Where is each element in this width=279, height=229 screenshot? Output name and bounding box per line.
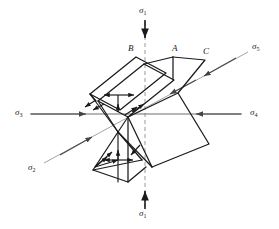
label-point-a: A [172,44,178,53]
sheet-b-face [90,57,166,110]
stress-state-diagram: σ1 σ1 σ3 σ4 σ5 σ2 B A C [0,0,279,229]
label-point-b: B [128,44,134,53]
lower-sheet-edge-c [128,167,146,182]
label-sigma2-lower-left: σ2 [28,163,35,173]
label-sigma3-left: σ3 [15,108,22,118]
sigma5-arrow [204,58,236,76]
label-sigma1-top: σ1 [139,6,146,16]
diagram-canvas [0,0,279,229]
sheet-a-top-edge [144,57,173,64]
label-sigma4-right: σ4 [250,108,257,118]
label-sigma5-upper-right: σ5 [252,42,259,52]
sigma2-arrow [60,137,92,155]
label-point-c: C [203,47,209,56]
upper-left-sheet [90,57,166,110]
label-sigma1-bottom: σ1 [139,209,146,219]
traction-arrow-dl-2 [85,100,96,107]
axis-sigma2-sigma5-diagonal [44,52,248,163]
lower-sheet [93,117,146,182]
ray-upper-right [118,117,128,132]
